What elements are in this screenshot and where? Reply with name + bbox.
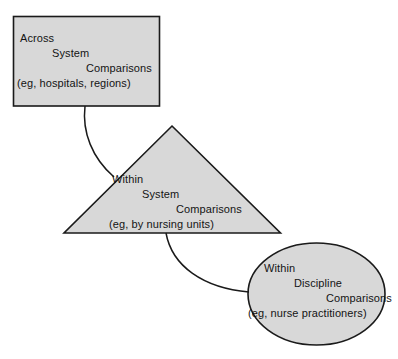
rectangle-node-label-group: Across System Comparisons (eg, hospitals…: [20, 31, 152, 91]
triangle-node-line-3: Comparisons: [176, 202, 242, 217]
triangle-node-line-4: (eg, by nursing units): [109, 217, 242, 232]
triangle-node-line-1: Within: [112, 172, 242, 187]
ellipse-node-line-1: Within: [264, 261, 392, 276]
rectangle-node-line-4: (eg, hospitals, regions): [17, 76, 152, 91]
connector-rectangle-to-triangle: [84, 106, 114, 177]
ellipse-node-line-4: (eg, nurse practitioners): [248, 306, 392, 321]
diagram-canvas: Across System Comparisons (eg, hospitals…: [0, 0, 398, 359]
ellipse-node-line-3: Comparisons: [326, 291, 392, 306]
ellipse-node-label-group: Within Discipline Comparisons (eg, nurse…: [264, 261, 392, 321]
rectangle-node-line-2: System: [52, 46, 152, 61]
triangle-node-label-group: Within System Comparisons (eg, by nursin…: [112, 172, 242, 232]
triangle-node-line-2: System: [142, 187, 242, 202]
connector-triangle-to-ellipse: [166, 233, 249, 292]
rectangle-node-line-3: Comparisons: [86, 61, 152, 76]
ellipse-node-line-2: Discipline: [294, 276, 392, 291]
rectangle-node-line-1: Across: [20, 31, 152, 46]
